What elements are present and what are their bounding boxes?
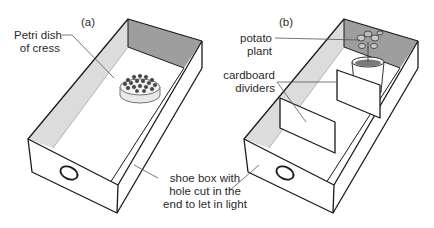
label-line: of cress	[14, 42, 60, 55]
label-potato-plant: potato plant	[229, 32, 272, 58]
label-line: Petri dish	[14, 29, 60, 42]
label-line: hole cut in the	[155, 185, 255, 198]
panel-a-tag: (a)	[81, 16, 95, 28]
label-line: dividers	[220, 82, 275, 95]
label-shoe-box: shoe box with hole cut in the end to let…	[155, 172, 255, 211]
label-petri-dish: Petri dish of cress	[14, 29, 60, 55]
panel-b-tag: (b)	[279, 16, 293, 28]
label-line: potato	[229, 32, 272, 45]
label-cardboard-dividers: cardboard dividers	[220, 69, 275, 95]
label-line: cardboard	[220, 69, 275, 82]
label-line: end to let in light	[155, 198, 255, 211]
label-line: shoe box with	[155, 172, 255, 185]
label-line: plant	[229, 45, 272, 58]
